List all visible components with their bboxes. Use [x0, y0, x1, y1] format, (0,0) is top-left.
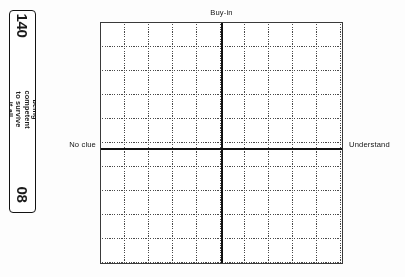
- vertical-axis-line: [221, 23, 223, 263]
- chapter-number: 08: [15, 186, 30, 202]
- axis-label-left: No clue: [69, 140, 96, 149]
- quadrant-grid-figure: Buy-in No clue Understand: [100, 22, 343, 264]
- horizontal-axis-line: [101, 148, 342, 150]
- page-running-head-sidebar: 140 being competent to survive it all 08: [9, 10, 36, 213]
- grid-area: [100, 22, 343, 264]
- running-head-text: being competent to survive it all: [10, 91, 35, 129]
- page-number: 140: [15, 13, 30, 37]
- axis-label-right: Understand: [349, 140, 390, 149]
- axis-label-top: Buy-in: [100, 8, 343, 17]
- book-page: 140 being competent to survive it all 08…: [0, 0, 405, 277]
- running-head-container: being competent to survive it all: [10, 33, 35, 187]
